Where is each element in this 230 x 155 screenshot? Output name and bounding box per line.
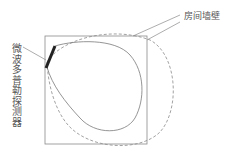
detector-bar <box>46 46 55 68</box>
coverage-area-dashed-ellipse <box>47 34 173 146</box>
room-wall-rectangle <box>45 36 147 144</box>
detector-label: 微波多普勒探测器 <box>9 43 21 127</box>
detector-leader-line <box>23 47 46 60</box>
wall-label: 房间墙壁 <box>184 9 220 22</box>
detection-pattern-teardrop <box>47 42 142 131</box>
detection-diagram <box>0 0 230 155</box>
wall-leader-line-2 <box>147 22 180 40</box>
